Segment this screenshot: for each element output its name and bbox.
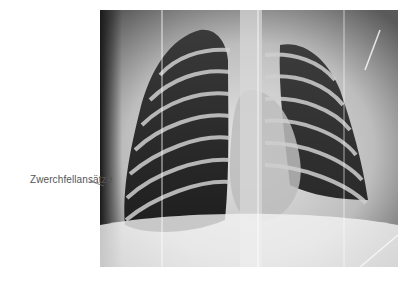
xray-image (100, 10, 398, 267)
xray-illustration (100, 10, 398, 267)
annotation-label: Zwerchfellansätze (30, 174, 112, 185)
